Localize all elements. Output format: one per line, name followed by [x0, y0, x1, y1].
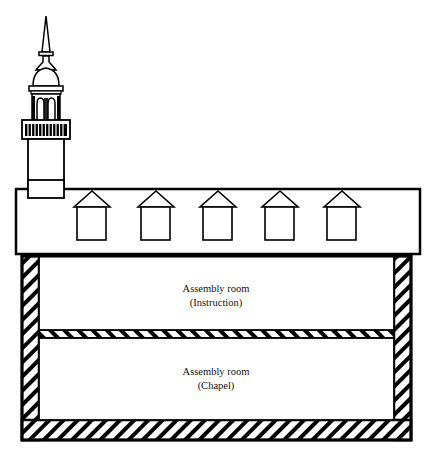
- room-label-chapel: Assembly room (Chapel): [116, 365, 316, 393]
- right-wall: [394, 256, 411, 440]
- balcony: [22, 120, 70, 139]
- room-name: Assembly room: [116, 282, 316, 296]
- room-label-instruction: Assembly room (Instruction): [116, 282, 316, 310]
- room-purpose: (Instruction): [116, 296, 316, 310]
- floor-slab: [39, 330, 394, 338]
- dome: [29, 68, 63, 94]
- tower: [22, 16, 70, 198]
- lantern: [32, 94, 60, 120]
- left-wall: [22, 256, 39, 440]
- spire: [36, 16, 56, 70]
- foundation: [22, 420, 411, 440]
- room-name: Assembly room: [116, 365, 316, 379]
- room-purpose: (Chapel): [116, 379, 316, 393]
